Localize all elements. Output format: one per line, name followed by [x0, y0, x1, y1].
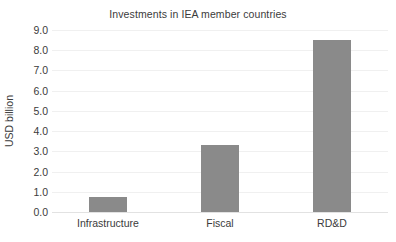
- x-tick-label: Infrastructure: [52, 217, 164, 229]
- gridline: [52, 30, 388, 31]
- y-tick-label: 4.0: [8, 125, 48, 137]
- y-tick-label: 3.0: [8, 145, 48, 157]
- y-tick-label: 9.0: [8, 24, 48, 36]
- gridline: [52, 212, 388, 213]
- chart-title: Investments in IEA member countries: [0, 8, 396, 20]
- y-tick-label: 6.0: [8, 85, 48, 97]
- bar: [313, 40, 351, 212]
- y-tick-label: 2.0: [8, 166, 48, 178]
- x-tick-label: RD&D: [276, 217, 388, 229]
- y-tick-label: 1.0: [8, 186, 48, 198]
- y-tick-label: 7.0: [8, 64, 48, 76]
- bar: [201, 145, 239, 212]
- bar: [89, 197, 127, 212]
- y-tick-label: 0.0: [8, 206, 48, 218]
- x-tick-label: Fiscal: [164, 217, 276, 229]
- bar-chart: Investments in IEA member countries USD …: [0, 0, 396, 242]
- y-tick-label: 5.0: [8, 105, 48, 117]
- y-tick-label: 8.0: [8, 44, 48, 56]
- y-axis-title: USD billion: [2, 30, 16, 212]
- plot-area: [52, 30, 388, 212]
